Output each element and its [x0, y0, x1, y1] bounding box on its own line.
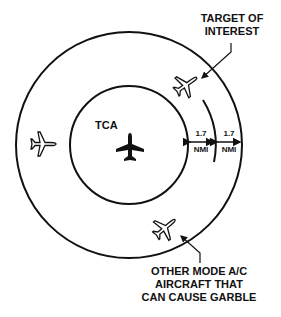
distance-inner-value: 1.7	[195, 129, 207, 138]
tca-label: TCA	[95, 119, 118, 131]
distance-outer-value: 1.7	[223, 129, 235, 138]
tca-aircraft-icon	[116, 133, 144, 161]
distance-inner-unit: NMI	[194, 145, 209, 154]
target-label-line1: TARGET OF	[201, 12, 264, 24]
distance-marker-inner: 1.7 NMI	[190, 129, 213, 154]
distance-outer-unit: NMI	[222, 145, 237, 154]
tca-garble-diagram: 1.7 NMI 1.7 NMI TCA TARGET OF INTEREST O…	[0, 0, 281, 317]
garble-aircraft-icon	[148, 210, 183, 244]
distance-marker-outer: 1.7 NMI	[217, 129, 240, 154]
target-label-line2: INTEREST	[205, 25, 260, 37]
left-aircraft-icon	[31, 132, 56, 156]
other-label-line1: OTHER MODE A/C	[151, 265, 247, 277]
other-label-line3: CAN CAUSE GARBLE	[142, 291, 257, 303]
target-aircraft-icon	[169, 68, 203, 102]
other-label-line2: AIRCRAFT THAT	[155, 278, 243, 290]
